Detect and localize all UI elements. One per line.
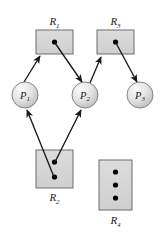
resource-R3[interactable]: R3 [97,15,134,54]
resource-label-R1-sub: 1 [56,22,60,30]
resource-allocation-graph-figure: R1 R3 R2 [0,0,165,244]
resource-label-R4-sub: 4 [117,221,121,229]
resource-label-R1: R1 [48,15,59,30]
resource-instance-dot-R4-1 [113,169,118,174]
resource-label-R4: R4 [109,214,121,229]
graph-canvas: R1 R3 R2 [0,0,165,244]
resource-label-R2-sub: 2 [56,198,60,206]
process-P2[interactable]: P2 [72,82,98,108]
resource-instance-dot-R4-3 [113,195,118,200]
resource-instance-dot-R4-2 [113,182,118,187]
processes-group: P1 P2 P3 [12,82,153,108]
resource-label-R3-sub: 3 [116,22,121,30]
resource-R4[interactable]: R4 [99,160,132,229]
resource-label-R2: R2 [48,191,60,206]
resource-instance-dot-R3-1 [113,39,118,44]
resource-label-R3: R3 [109,15,121,30]
process-label-P1-sub: 1 [26,95,30,103]
resource-R1[interactable]: R1 [36,15,73,54]
edge-P1-R1 [24,56,40,82]
resources-group: R1 R3 R2 [36,15,134,229]
process-P1[interactable]: P1 [12,82,38,108]
edge-P2-R3 [90,57,101,83]
process-label-P2-sub: 2 [86,95,90,103]
process-label-P3-sub: 3 [140,95,145,103]
resource-R2[interactable]: R2 [36,150,73,206]
process-P3[interactable]: P3 [127,82,153,108]
resource-box-R2[interactable] [36,150,73,188]
